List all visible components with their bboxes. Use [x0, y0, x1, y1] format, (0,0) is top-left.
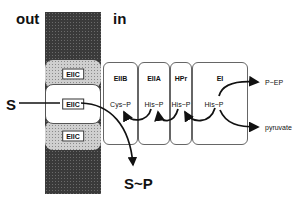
arrow-eiia-to-eiib: [124, 109, 151, 120]
arrow-pep: [219, 82, 258, 96]
arrows-layer: [0, 0, 306, 206]
product-arrow: [81, 103, 133, 165]
arrow-ei-to-hpr: [185, 108, 215, 121]
arrow-hpr-to-eiia: [158, 109, 178, 121]
arrow-pyruvate: [220, 110, 258, 127]
